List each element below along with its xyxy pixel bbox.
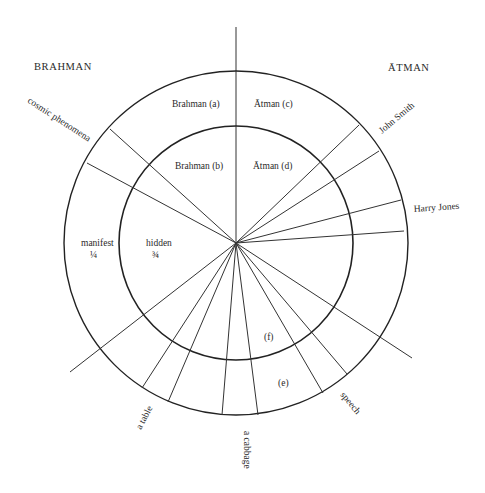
label-atman-d: Ātman (d): [253, 161, 292, 172]
heading-brahman: BRAHMAN: [34, 61, 92, 72]
label-cosmic-phenomena: cosmic phenomena: [26, 95, 93, 144]
label-manifest-fraction: ¼: [90, 250, 97, 260]
label-hidden: hidden: [146, 238, 172, 248]
ray-harry-jones-2: [236, 231, 404, 243]
ray-harry-jones-1: [236, 200, 401, 243]
ray-table-2: [142, 243, 236, 388]
ray-speech-2: [236, 243, 323, 393]
label-a-table: a table: [134, 404, 155, 431]
ray-long-left: [70, 243, 236, 372]
heading-atman: ĀTMAN: [388, 62, 430, 73]
label-harry-jones: Harry Jones: [413, 201, 460, 214]
label-atman-c: Ātman (c): [254, 99, 293, 110]
ray-cabbage-2: [222, 243, 236, 415]
ray-long-right: [236, 243, 412, 358]
label-manifest: manifest: [81, 238, 114, 248]
ray-speech-1: [236, 243, 347, 374]
label-speech: speech: [338, 390, 362, 416]
label-john-smith: John Smith: [377, 100, 417, 135]
brahman-atman-diagram: BRAHMAN ĀTMAN Brahman (a) Ātman (c) Brah…: [0, 0, 485, 493]
label-hidden-fraction: ¾: [152, 250, 159, 260]
label-brahman-b: Brahman (b): [175, 161, 223, 172]
ray-table-1: [168, 243, 236, 402]
label-a-cabbage: a cabbage: [242, 431, 252, 469]
label-e: (e): [278, 378, 289, 389]
label-f: (f): [264, 332, 274, 343]
label-brahman-a: Brahman (a): [172, 99, 220, 110]
ray-cabbage-1: [236, 243, 258, 415]
